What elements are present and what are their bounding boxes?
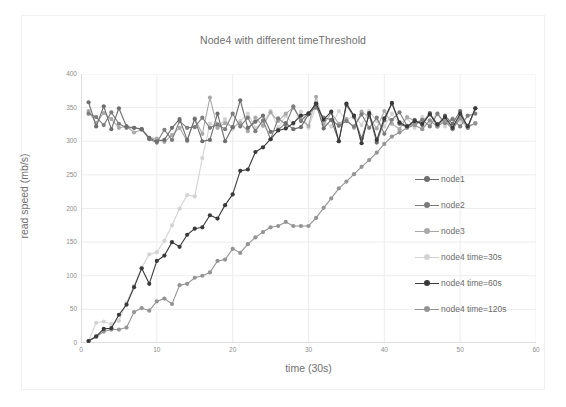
series-marker <box>450 126 454 130</box>
series-marker <box>155 299 159 303</box>
series-marker <box>109 127 113 131</box>
series-marker <box>367 111 371 115</box>
series-marker <box>200 156 204 160</box>
series-marker <box>193 227 197 231</box>
series-marker <box>458 124 462 128</box>
series-marker <box>337 124 341 128</box>
series-marker <box>367 126 371 130</box>
series-marker <box>276 128 280 132</box>
series-marker <box>162 239 166 243</box>
series-marker <box>253 129 257 133</box>
legend-label: node3 <box>439 226 465 236</box>
x-tick-label: 30 <box>299 346 319 353</box>
chart-figure: Node4 with different timeThreshold read … <box>0 0 566 407</box>
series-marker <box>375 138 379 142</box>
legend-dot-icon <box>424 202 430 208</box>
series-marker <box>140 266 144 270</box>
y-tick-label: 300 <box>51 137 77 144</box>
series-marker <box>223 117 227 121</box>
series-marker <box>102 327 106 331</box>
legend-dot-icon <box>424 176 430 182</box>
legend-item[interactable]: node4 time=30s <box>415 244 545 270</box>
series-marker <box>109 110 113 114</box>
series-marker <box>382 109 386 113</box>
series-marker <box>215 216 219 220</box>
series-marker <box>352 124 356 128</box>
series-marker <box>329 110 333 114</box>
series-marker <box>208 213 212 217</box>
series-marker <box>124 325 128 329</box>
series-marker <box>390 118 394 122</box>
x-tick-label: 0 <box>71 346 91 353</box>
legend-item[interactable]: node4 time=60s <box>415 270 545 296</box>
series-marker <box>314 101 318 105</box>
series-marker <box>177 283 181 287</box>
series-marker <box>253 235 257 239</box>
series-marker <box>170 302 174 306</box>
series-marker <box>132 310 136 314</box>
series-marker <box>238 169 242 173</box>
series-marker <box>466 124 470 128</box>
series-marker <box>435 122 439 126</box>
series-marker <box>261 145 265 149</box>
series-marker <box>215 112 219 116</box>
series-marker <box>261 230 265 234</box>
series-marker <box>94 321 98 325</box>
series-marker <box>397 130 401 134</box>
series-marker <box>117 313 121 317</box>
y-tick-label: 0 <box>51 339 77 346</box>
series-marker <box>170 240 174 244</box>
legend-marker-icon <box>415 200 439 210</box>
legend-label: node4 time=60s <box>439 278 502 288</box>
series-marker <box>246 242 250 246</box>
series-marker <box>223 258 227 262</box>
series-marker <box>162 253 166 257</box>
series-marker <box>359 165 363 169</box>
legend-item[interactable]: node2 <box>415 192 545 218</box>
legend-label: node2 <box>439 200 465 210</box>
series-marker <box>314 95 318 99</box>
legend-item[interactable]: node4 time=120s <box>415 296 545 322</box>
series-marker <box>428 112 432 116</box>
series-marker <box>428 118 432 122</box>
y-tick-label: 150 <box>51 238 77 245</box>
series-marker <box>299 125 303 129</box>
series-marker <box>367 158 371 162</box>
series-marker <box>420 122 424 126</box>
y-tick-label: 400 <box>51 70 77 77</box>
series-marker <box>352 114 356 118</box>
legend-dot-icon <box>424 306 430 312</box>
series-marker <box>147 252 151 256</box>
series-marker <box>268 137 272 141</box>
series-marker <box>117 327 121 331</box>
series-marker <box>291 127 295 131</box>
series-marker <box>473 121 477 125</box>
series-marker <box>177 117 181 121</box>
legend-item[interactable]: node3 <box>415 218 545 244</box>
series-marker <box>253 150 257 154</box>
series-marker <box>443 115 447 119</box>
series-marker <box>246 167 250 171</box>
y-tick-label: 250 <box>51 171 77 178</box>
series-marker <box>337 139 341 143</box>
legend-marker-icon <box>415 304 439 314</box>
series-marker <box>284 126 288 130</box>
series-marker <box>375 151 379 155</box>
series-marker <box>359 141 363 145</box>
series-marker <box>102 123 106 127</box>
series-marker <box>299 224 303 228</box>
series-marker <box>223 121 227 125</box>
series-marker <box>170 223 174 227</box>
series-marker <box>208 126 212 130</box>
series-marker <box>94 115 98 119</box>
chart-legend: node1node2node3node4 time=30snode4 time=… <box>415 166 545 322</box>
series-marker <box>299 110 303 114</box>
series-marker <box>94 334 98 338</box>
series-marker <box>382 116 386 120</box>
series-marker <box>291 104 295 108</box>
series-marker <box>276 116 280 120</box>
series-marker <box>147 282 151 286</box>
legend-item[interactable]: node1 <box>415 166 545 192</box>
series-marker <box>306 112 310 116</box>
series-marker <box>284 121 288 125</box>
